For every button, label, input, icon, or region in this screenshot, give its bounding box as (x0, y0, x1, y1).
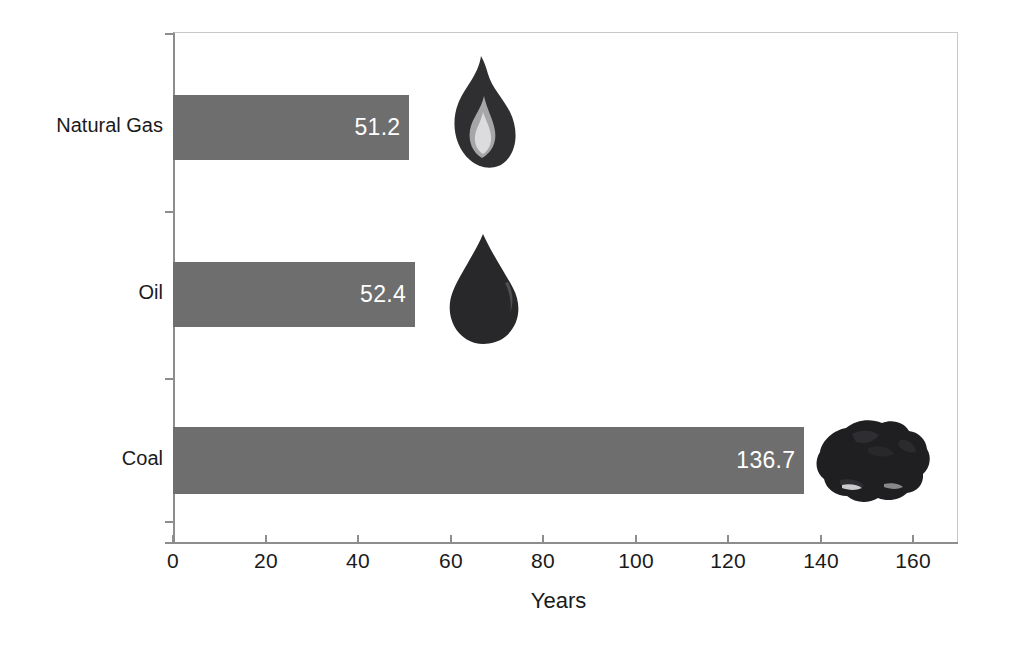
x-axis-tick-label: 120 (698, 549, 758, 573)
x-axis-tick-label: 100 (606, 549, 666, 573)
x-axis-tick-label: 20 (236, 549, 296, 573)
x-axis-tick-label: 80 (513, 549, 573, 573)
x-axis-tick (820, 535, 822, 543)
x-axis-tick (912, 535, 914, 543)
x-axis-tick-label: 0 (143, 549, 203, 573)
coal-lump-icon (812, 418, 934, 508)
x-axis-tick-label: 60 (421, 549, 481, 573)
x-axis-tick (357, 535, 359, 543)
x-axis-title-text: Years (531, 588, 586, 613)
bar-chart: 51.2 Natural Gas 52.4 Oil 136.7 Coal (0, 0, 1013, 646)
bar-oil[interactable]: 52.4 (173, 262, 415, 327)
x-axis-tick-label: 40 (328, 549, 388, 573)
x-axis-line (165, 542, 958, 544)
x-axis-tick (727, 535, 729, 543)
x-axis-tick (635, 535, 637, 543)
x-axis-tick (265, 535, 267, 543)
flame-icon (448, 54, 520, 172)
category-label-natural-gas-text: Natural Gas (56, 114, 163, 136)
bar-value-oil: 52.4 (360, 283, 415, 306)
category-label-oil-text: Oil (139, 281, 163, 303)
category-label-coal: Coal (0, 447, 163, 470)
x-axis-tick-label: 140 (791, 549, 851, 573)
category-label-coal-text: Coal (122, 447, 163, 469)
oil-drop-icon (442, 231, 524, 347)
y-axis-tick (165, 33, 174, 35)
bar-value-coal: 136.7 (736, 449, 804, 472)
x-axis-title: Years (0, 588, 1013, 614)
x-axis-tick (542, 535, 544, 543)
y-axis-tick (165, 378, 174, 380)
y-axis-tick (165, 211, 174, 213)
x-axis-tick (172, 535, 174, 543)
category-label-natural-gas: Natural Gas (0, 114, 163, 137)
x-axis-tick (450, 535, 452, 543)
x-axis-tick-label: 160 (883, 549, 943, 573)
bar-value-natural-gas: 51.2 (355, 116, 410, 139)
bar-natural-gas[interactable]: 51.2 (173, 95, 409, 160)
y-axis-tick (165, 521, 174, 523)
bar-coal[interactable]: 136.7 (173, 427, 804, 494)
category-label-oil: Oil (0, 281, 163, 304)
